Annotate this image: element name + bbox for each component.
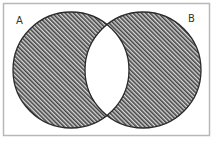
set-a-label: A — [16, 15, 23, 26]
venn-diagram: A B — [0, 0, 214, 142]
set-b-label: B — [188, 13, 195, 24]
